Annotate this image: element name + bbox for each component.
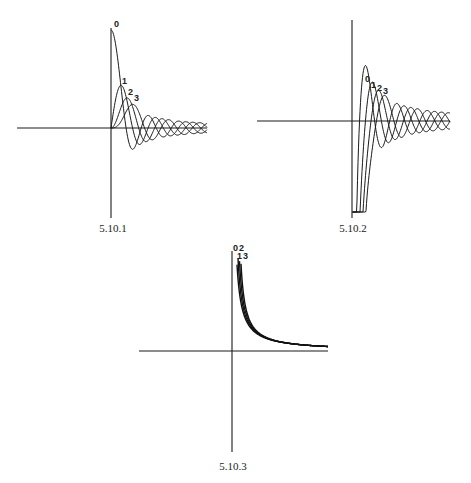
figure-5-10-1: 0123 5.10.1 bbox=[17, 19, 207, 234]
curve-n1 bbox=[238, 258, 328, 346]
curve-n3 bbox=[241, 264, 328, 347]
curve-labels: 0213 bbox=[233, 243, 248, 261]
curve-label: 0 bbox=[114, 19, 119, 29]
curve-n2 bbox=[240, 261, 329, 346]
figure-canvas: 0123 5.10.1 0123 5.10.2 0213 5.10.3 bbox=[0, 0, 471, 483]
curves bbox=[353, 66, 451, 213]
curve-label: 0 bbox=[365, 74, 370, 84]
curve-n0 bbox=[237, 265, 328, 347]
figure-caption: 5.10.2 bbox=[339, 222, 367, 234]
curve-label: 1 bbox=[122, 76, 127, 86]
curve-label: 3 bbox=[134, 93, 139, 103]
figure-5-10-3: 0213 5.10.3 bbox=[139, 243, 328, 472]
curve-label: 1 bbox=[371, 80, 376, 90]
curve-label: 3 bbox=[243, 251, 248, 261]
curve-label: 3 bbox=[383, 86, 388, 96]
curves bbox=[237, 258, 328, 347]
figure-caption: 5.10.3 bbox=[219, 460, 247, 472]
curves bbox=[111, 30, 207, 149]
curve-label: 2 bbox=[377, 83, 382, 93]
curve-n1 bbox=[111, 85, 207, 144]
figure-caption: 5.10.1 bbox=[99, 222, 127, 234]
curve-label: 2 bbox=[128, 87, 133, 97]
curve-label: 1 bbox=[237, 251, 242, 261]
figure-5-10-2: 0123 5.10.2 bbox=[257, 20, 450, 234]
